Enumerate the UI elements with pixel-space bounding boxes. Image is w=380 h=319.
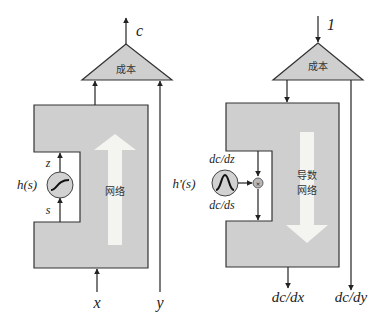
dcds-label: dc/ds (209, 198, 235, 212)
sigmoid-node (47, 172, 73, 198)
input-x-label: x (92, 294, 100, 311)
derivative-node (212, 170, 238, 196)
cost-label: 成本 (116, 63, 136, 75)
left-panel: c 成本 网络 y x z s h(s) (17, 18, 172, 312)
multiply-icon: × (255, 180, 260, 187)
network-label-line1: 导数 (297, 169, 317, 181)
s-label: s (46, 203, 51, 217)
network-label-line2: 网络 (297, 184, 317, 196)
h-function-label: h(s) (17, 177, 37, 192)
input-one-label: 1 (327, 16, 335, 33)
network-label: 网络 (105, 185, 125, 197)
output-dcdx-label: dc/dx (272, 289, 305, 305)
cost-label: 成本 (308, 60, 328, 72)
h-prime-function-label: h'(s) (173, 176, 196, 191)
z-label: z (45, 156, 51, 170)
output-c-label: c (136, 22, 143, 39)
input-y-label: y (154, 294, 164, 312)
backprop-diagram: c 成本 网络 y x z s h(s) 1 成本 (0, 0, 380, 319)
derivative-network-block (226, 103, 339, 267)
right-panel: 1 成本 dc/dy 导数 网络 dc/dx × dc/dz dc/ds h'(… (173, 16, 368, 305)
dcdz-label: dc/dz (209, 152, 235, 166)
output-dcdy-label: dc/dy (335, 289, 368, 305)
